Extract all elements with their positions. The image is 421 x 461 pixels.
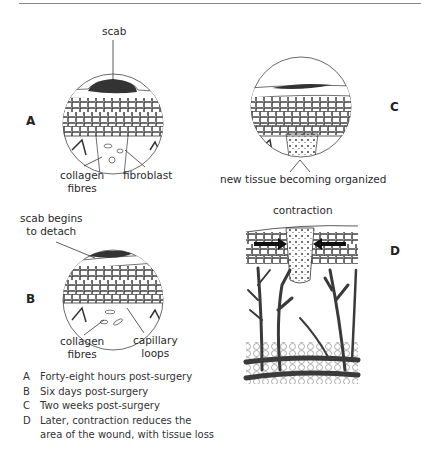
label-collagen-fibres-b: collagen fibres (60, 335, 104, 361)
label-new-tissue: new tissue becoming organized (220, 173, 386, 186)
legend-key (23, 428, 40, 443)
legend-key: A (23, 370, 40, 385)
legend-row-d-cont: area of the wound, with tissue loss (23, 428, 214, 443)
legend-key: B (23, 385, 40, 400)
label-scab: scab (102, 25, 126, 38)
label-contraction: contraction (273, 204, 333, 217)
label-fibroblast: fibroblast (123, 169, 172, 182)
panel-c-drawing (248, 57, 356, 172)
legend-key: D (23, 414, 40, 429)
legend: A Forty-eight hours post-surgery B Six d… (23, 370, 214, 443)
legend-row-b: B Six days post-surgery (23, 385, 214, 400)
panel-a-drawing (58, 40, 172, 175)
legend-text: Forty-eight hours post-surgery (40, 370, 192, 385)
legend-text: Two weeks post-surgery (40, 399, 160, 414)
legend-key: C (23, 399, 40, 414)
legend-row-a: A Forty-eight hours post-surgery (23, 370, 214, 385)
legend-text: Later, contraction reduces the (40, 414, 191, 429)
legend-text: Six days post-surgery (40, 385, 148, 400)
panel-d-drawing (246, 226, 358, 384)
panel-letter-d: D (390, 244, 400, 258)
panel-letter-b: B (26, 292, 35, 306)
legend-row-c: C Two weeks post-surgery (23, 399, 214, 414)
label-collagen-fibres-a: collagen fibres (60, 169, 104, 195)
label-scab-begins-to-detach: scab begins to detach (20, 212, 83, 238)
panel-letter-c: C (390, 100, 399, 114)
legend-text: area of the wound, with tissue loss (40, 428, 214, 443)
legend-row-d: D Later, contraction reduces the (23, 414, 214, 429)
label-capillary-loops: capillary loops (133, 334, 178, 360)
panel-letter-a: A (26, 114, 35, 128)
